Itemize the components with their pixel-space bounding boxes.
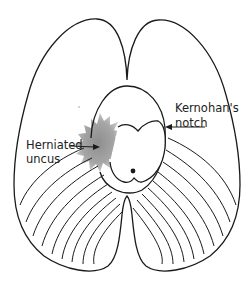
uncus-label-line1: Herniated: [26, 138, 83, 152]
uncus-label-line2: uncus: [26, 152, 60, 166]
kernohan-label-line1: Kernohan's: [175, 101, 239, 115]
kernohan-label-line2: notch: [175, 116, 207, 130]
cerebral-aqueduct: [131, 169, 136, 174]
